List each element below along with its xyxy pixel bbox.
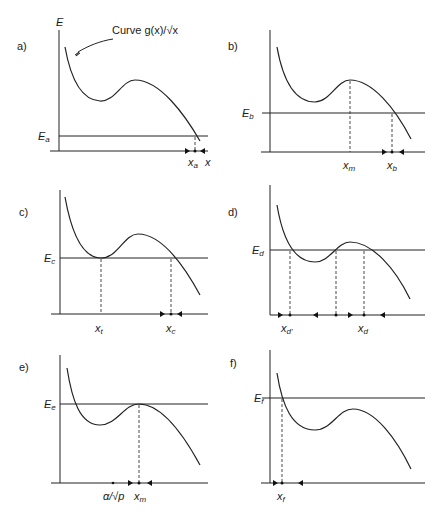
curve-g [277, 373, 411, 469]
point-label: xb [386, 159, 398, 173]
panel-d: d) Ed xd' xd [228, 185, 425, 336]
arrow-right-icon [273, 480, 278, 486]
annotation-squiggle-icon [75, 52, 80, 56]
curve-annotation: Curve g(x)/√x [112, 24, 178, 36]
panel-label-b: b) [228, 40, 238, 52]
arrow-left-icon [399, 149, 404, 155]
arrow-left-icon [200, 148, 205, 154]
energy-label: Eb [242, 107, 254, 121]
point-label: xd [357, 322, 369, 336]
x-axis-label: x [204, 156, 211, 168]
figure-canvas: a) E Ea xa x Curve g(x)/√x b) Eb xm xb c [0, 0, 444, 516]
panel-label-f: f) [230, 357, 237, 369]
panel-f: f) Ef xf [230, 350, 425, 504]
y-axis-label: E [56, 16, 64, 28]
annotation-leader-line [78, 39, 113, 52]
point-label: α/√p [103, 490, 124, 502]
fixed-point-dot [281, 482, 284, 485]
panel-a: a) E Ea xa x Curve g(x)/√x [17, 16, 211, 170]
panel-b: b) Eb xm xb [228, 30, 425, 173]
panel-label-d: d) [228, 206, 238, 218]
fixed-point-dot [194, 150, 197, 153]
curve-g [277, 205, 410, 299]
arrow-right-icon [160, 311, 165, 317]
arrow-left-icon [380, 312, 385, 318]
energy-label: Ef [254, 392, 264, 406]
energy-label: Ed [252, 244, 264, 258]
point-label: xc [165, 322, 176, 336]
energy-label: Ee [44, 398, 56, 412]
fixed-point-dot [391, 151, 394, 154]
point-label: xf [276, 490, 286, 504]
energy-label: Ea [38, 130, 50, 144]
point-label: xm [133, 490, 147, 504]
energy-label: Ec [44, 252, 55, 266]
arrow-left-icon [177, 311, 182, 317]
panel-label-c: c) [19, 206, 28, 218]
panel-label-e: e) [19, 361, 29, 373]
fixed-point-dot [335, 314, 338, 317]
panel-label-a: a) [17, 40, 27, 52]
point-label: xt [94, 322, 104, 336]
arrow-right-icon [382, 149, 387, 155]
arrow-right-icon [185, 148, 190, 154]
curve-g [277, 47, 411, 139]
point-label: xa [187, 156, 199, 170]
arrow-right-icon [348, 312, 353, 318]
point-label: xm [342, 159, 356, 173]
panel-e: e) Ee α/√p xm [19, 355, 208, 504]
panel-c: c) Ec xt xc [19, 190, 208, 336]
arrow-left-icon [313, 312, 318, 318]
arrow-right-icon [278, 312, 283, 318]
point-label: xd' [280, 322, 293, 336]
fixed-point-dot [138, 482, 141, 485]
point-marker-dot [112, 482, 115, 485]
arrow-right-icon [128, 480, 133, 486]
curve-g [67, 368, 200, 465]
fixed-point-dot [170, 313, 173, 316]
curve-g [65, 47, 200, 141]
arrow-left-icon [147, 480, 152, 486]
curve-g [65, 197, 200, 295]
arrow-left-icon [298, 480, 303, 486]
fixed-point-dot [289, 314, 292, 317]
fixed-point-dot [363, 314, 366, 317]
